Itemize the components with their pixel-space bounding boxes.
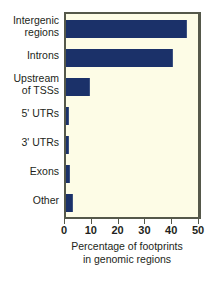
x-tick-label-50: 50 — [192, 224, 204, 237]
bar-series — [66, 14, 198, 217]
x-tick-label-0: 0 — [61, 224, 67, 237]
y-axis-label-5: Exons — [0, 166, 59, 178]
bar — [66, 49, 173, 67]
y-axis-label-2: Upstream of TSSs — [0, 73, 59, 96]
bar-fill — [66, 20, 187, 38]
x-tick-label-10: 10 — [85, 224, 97, 237]
bar-fill — [66, 78, 90, 96]
bar-fill — [66, 194, 73, 212]
y-axis-label-3: 5' UTRs — [0, 108, 59, 120]
bar — [66, 165, 70, 183]
x-axis-tick-labels: 01020304050 — [0, 224, 220, 238]
x-axis-title-line-2: in genomic regions — [44, 253, 210, 266]
bar-fill — [66, 165, 70, 183]
y-axis-category-labels: Intergenic regionsIntronsUpstream of TSS… — [0, 12, 62, 219]
bar-fill — [66, 136, 69, 154]
x-tick-label-40: 40 — [165, 224, 177, 237]
bar — [66, 107, 69, 125]
bar — [66, 20, 187, 38]
y-axis-label-6: Other — [0, 195, 59, 207]
x-tick-label-30: 30 — [138, 224, 150, 237]
chart-figure: Intergenic regionsIntronsUpstream of TSS… — [0, 0, 220, 287]
bar — [66, 136, 69, 154]
plot-area — [64, 12, 201, 219]
y-axis-label-0: Intergenic regions — [0, 15, 59, 38]
bar — [66, 78, 90, 96]
y-axis-label-1: Introns — [0, 50, 59, 62]
x-axis-title: Percentage of footprints in genomic regi… — [44, 240, 210, 265]
x-tick-label-20: 20 — [111, 224, 123, 237]
bar-fill — [66, 49, 173, 67]
x-axis-title-line-1: Percentage of footprints — [44, 240, 210, 253]
bar-fill — [66, 107, 69, 125]
bar — [66, 194, 73, 212]
y-axis-label-4: 3' UTRs — [0, 137, 59, 149]
